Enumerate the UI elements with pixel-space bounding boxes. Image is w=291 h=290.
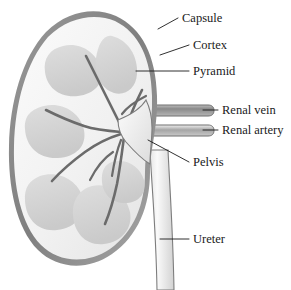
kidney-diagram-svg: Capsule Cortex Pyramid Renal vein Renal …: [0, 0, 291, 290]
label-renal-vein: Renal vein: [222, 103, 277, 117]
label-ureter: Ureter: [193, 232, 226, 246]
label-cortex: Cortex: [193, 38, 228, 52]
label-pyramid: Pyramid: [193, 64, 236, 78]
kidney-diagram-figure: Capsule Cortex Pyramid Renal vein Renal …: [0, 0, 291, 290]
ureter-shape: [150, 150, 174, 290]
leader-capsule: [158, 18, 178, 29]
leader-cortex: [160, 45, 189, 55]
label-capsule: Capsule: [182, 11, 223, 25]
label-renal-artery: Renal artery: [222, 123, 284, 137]
kidney-body: [9, 11, 157, 265]
label-pelvis: Pelvis: [193, 155, 224, 169]
